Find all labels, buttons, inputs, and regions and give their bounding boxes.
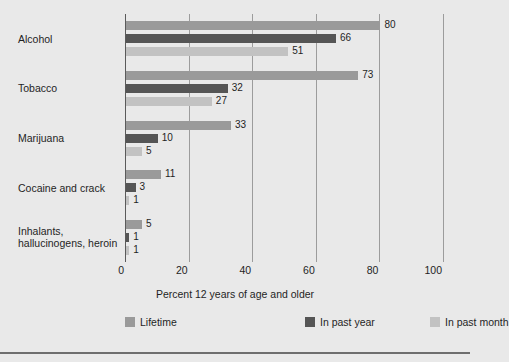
bar-value-label: 73 <box>362 70 373 79</box>
bar <box>126 233 129 242</box>
bar <box>126 196 129 205</box>
bar-value-label: 5 <box>146 219 152 228</box>
plot-area: 806651733227331051131511 <box>125 14 443 262</box>
bar <box>126 134 158 143</box>
bar-value-label: 27 <box>216 96 227 105</box>
bar-value-label: 1 <box>133 245 139 254</box>
bar <box>126 246 129 255</box>
legend-swatch-icon <box>125 317 135 327</box>
x-axis-title: Percent 12 years of age and older <box>0 288 470 300</box>
legend-item[interactable]: In past month <box>430 316 509 328</box>
legend-swatch-icon <box>305 317 315 327</box>
gridline-60 <box>316 14 317 262</box>
x-tick-label-100: 100 <box>424 264 445 276</box>
bar-value-label: 1 <box>133 195 139 204</box>
bar <box>126 121 231 130</box>
legend-swatch-icon <box>430 317 440 327</box>
legend-label: In past year <box>320 316 375 328</box>
bar-value-label: 10 <box>162 133 173 142</box>
bar <box>126 147 142 156</box>
bar-value-label: 66 <box>340 33 351 42</box>
bar-value-label: 51 <box>292 46 303 55</box>
bar-value-label: 11 <box>165 169 175 178</box>
bar <box>126 183 136 192</box>
legend-item[interactable]: In past year <box>305 316 375 328</box>
bottom-divider <box>0 352 470 354</box>
gridline-100 <box>443 14 444 262</box>
bar <box>126 71 358 80</box>
bar <box>126 34 336 43</box>
category-labels: AlcoholTobaccoMarijuanaCocaine and crack… <box>18 14 118 262</box>
legend-item[interactable]: Lifetime <box>125 316 177 328</box>
legend-label: Lifetime <box>140 316 177 328</box>
x-tick-label-0: 0 <box>118 264 127 276</box>
x-tick-label-80: 80 <box>367 264 382 276</box>
bar <box>126 170 161 179</box>
x-tick-label-20: 20 <box>176 264 191 276</box>
legend-label: In past month <box>445 316 509 328</box>
bar <box>126 21 380 30</box>
bar <box>126 84 228 93</box>
bar-value-label: 80 <box>384 20 395 29</box>
chart-legend: LifetimeIn past yearIn past month <box>125 316 445 330</box>
bar-value-label: 33 <box>235 120 246 129</box>
bar <box>126 220 142 229</box>
bar <box>126 97 212 106</box>
x-tick-label-40: 40 <box>240 264 255 276</box>
bar <box>126 47 288 56</box>
bar-value-label: 5 <box>146 146 152 155</box>
bar-value-label: 3 <box>140 182 146 191</box>
gridline-80 <box>379 14 380 262</box>
x-axis-tick-labels: 020406080100 <box>125 264 455 280</box>
bar-value-label: 32 <box>232 83 243 92</box>
x-tick-label-60: 60 <box>303 264 318 276</box>
bar-value-label: 1 <box>133 232 139 241</box>
